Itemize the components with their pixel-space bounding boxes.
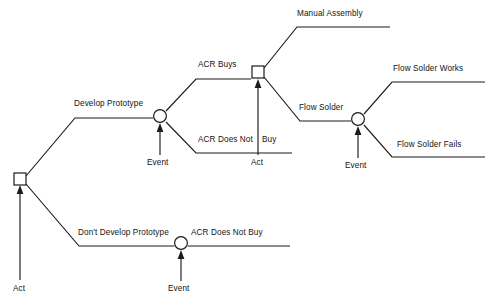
- label-manual-assembly: Manual Assembly: [297, 10, 363, 18]
- label-acr-buys: ACR Buys: [198, 61, 237, 69]
- branch-flow-solder: [264, 77, 351, 121]
- label-flow-solder-fails: Flow Solder Fails: [397, 141, 462, 149]
- branch-flow-solder-works: [364, 82, 485, 114]
- node-root-act-square[interactable]: [14, 173, 26, 185]
- pointer-arrow-event-no-develop: [178, 250, 185, 259]
- branch-develop-prototype: [26, 118, 153, 176]
- annotation-act-acr-buys: Act: [251, 159, 263, 167]
- node-acr-buys-act-square[interactable]: [252, 66, 264, 78]
- annotation-act-root: Act: [13, 285, 25, 293]
- label-acr-does-not-buy-bottom: ACR Does Not Buy: [191, 229, 263, 237]
- annotation-event-develop: Event: [147, 159, 168, 167]
- annotation-event-no-develop: Event: [168, 285, 189, 293]
- label-dont-develop-prototype: Don't Develop Prototype: [78, 229, 169, 237]
- pointer-arrow-act-root: [17, 185, 24, 194]
- branch-acr-buys: [166, 79, 251, 111]
- tree-graphics: [0, 0, 487, 305]
- label-acr-does-not-buy-left: ACR Does Not: [198, 136, 253, 144]
- decision-tree-diagram: Develop Prototype Don't Develop Prototyp…: [0, 0, 487, 305]
- annotation-event-flow-solder: Event: [345, 162, 366, 170]
- label-develop-prototype: Develop Prototype: [74, 100, 143, 108]
- node-flow-solder-event-circle[interactable]: [352, 113, 365, 126]
- label-flow-solder-works: Flow Solder Works: [393, 65, 463, 73]
- pointer-arrow-event-flow-solder: [355, 126, 362, 135]
- pointer-arrow-event-develop: [157, 123, 164, 132]
- label-flow-solder: Flow Solder: [299, 104, 343, 112]
- pointer-arrow-act-acr-buys: [255, 79, 262, 88]
- label-acr-does-not-buy-right: Buy: [262, 136, 276, 144]
- branch-manual-assembly: [264, 27, 390, 68]
- node-no-develop-event-circle[interactable]: [175, 237, 188, 250]
- node-develop-event-circle[interactable]: [154, 110, 167, 123]
